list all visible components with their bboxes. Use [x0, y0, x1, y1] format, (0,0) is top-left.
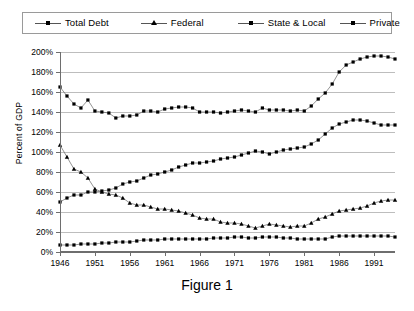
y-axis-tick-label: 180% [13, 68, 53, 77]
x-axis-tick [60, 252, 61, 256]
x-axis-tick-label: 1971 [225, 259, 244, 268]
figure-caption: Figure 1 [0, 277, 414, 293]
x-axis-tick-label: 1961 [155, 259, 174, 268]
x-axis-tick [95, 252, 96, 256]
legend-marker-total-debt [35, 18, 61, 28]
y-axis-tick-label: 80% [13, 168, 53, 177]
y-axis-tick-label: 200% [13, 48, 53, 57]
legend-item-federal: Federal [141, 13, 204, 33]
x-axis-tick [234, 252, 235, 256]
x-axis-tick [165, 252, 166, 256]
y-axis-tick-label: 160% [13, 88, 53, 97]
y-axis-tick-label: 0% [13, 248, 53, 257]
x-axis-tick-label: 1951 [85, 259, 104, 268]
x-axis-tick [374, 252, 375, 256]
chart-legend: Total Debt Federal State & Local Private [22, 12, 392, 34]
y-axis-tick-label: 100% [13, 148, 53, 157]
legend-label-private: Private [370, 18, 400, 28]
legend-item-private: Private [340, 13, 400, 33]
x-axis-tick-label: 1981 [295, 259, 314, 268]
x-axis-tick-label: 1991 [365, 259, 384, 268]
x-axis-tick-label: 1946 [51, 259, 70, 268]
gridline [60, 252, 395, 253]
plot-frame [60, 52, 395, 252]
legend-label-federal: Federal [171, 18, 204, 28]
x-axis-tick-label: 1986 [330, 259, 349, 268]
legend-item-total-debt: Total Debt [35, 13, 109, 33]
legend-marker-private [340, 18, 366, 28]
x-axis-tick [269, 252, 270, 256]
x-axis-tick [200, 252, 201, 256]
plot-area: 0%20%40%60%80%100%120%140%160%180%200% 1… [60, 52, 395, 252]
y-axis-tick-label: 20% [13, 228, 53, 237]
y-axis-tick-label: 40% [13, 208, 53, 217]
legend-label-state-and-local: State & Local [268, 18, 326, 28]
legend-marker-federal [141, 18, 167, 28]
y-axis-tick-label: 140% [13, 108, 53, 117]
legend-item-state-and-local: State & Local [238, 13, 326, 33]
x-axis-tick [339, 252, 340, 256]
figure-container: Total Debt Federal State & Local Private… [0, 0, 414, 311]
x-axis-tick-label: 1976 [260, 259, 279, 268]
x-axis-tick [130, 252, 131, 256]
y-axis-tick-label: 120% [13, 128, 53, 137]
x-axis-tick-label: 1956 [120, 259, 139, 268]
y-axis-tick-label: 60% [13, 188, 53, 197]
x-axis-tick-label: 1966 [190, 259, 209, 268]
legend-label-total-debt: Total Debt [65, 18, 109, 28]
legend-marker-state-and-local [238, 18, 264, 28]
x-axis-tick [304, 252, 305, 256]
